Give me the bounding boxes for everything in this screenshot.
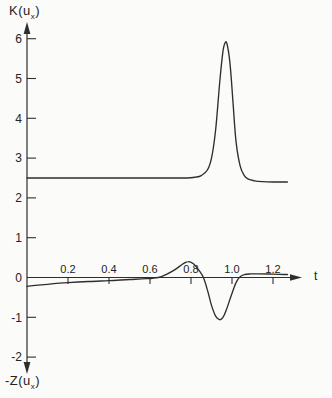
y-tick-label: 4 (15, 112, 22, 126)
y-axis-top-label-text: K(u (9, 3, 31, 18)
y-tick-label: 5 (15, 72, 22, 86)
y-tick-label: -2 (11, 350, 22, 364)
ticks: 6543210-1-20.20.40.60.81.01.2 (11, 32, 280, 364)
x-tick-label: 1.2 (265, 263, 280, 275)
x-tick-label: 0.2 (60, 263, 75, 275)
y-axis-top-label: K(ux) (9, 3, 40, 21)
y-axis-bottom-label: -Z(ux) (5, 373, 40, 391)
x-tick-label: 1.0 (224, 263, 239, 275)
x-axis-label: t (314, 269, 317, 283)
chart-canvas: 6543210-1-20.20.40.60.81.01.2 (0, 0, 332, 398)
y-tick-label: 1 (15, 231, 22, 245)
y-tick-label: 0 (15, 271, 22, 285)
figure: 6543210-1-20.20.40.60.81.01.2 K(ux) -Z(u… (0, 0, 332, 398)
y-axis-up-arrow-icon (24, 22, 31, 34)
x-tick-label: 0.4 (101, 263, 116, 275)
y-axis-top-label-close: ) (35, 3, 40, 18)
x-tick-label: 0.8 (183, 263, 198, 275)
upper-curve-K (27, 42, 287, 182)
y-axis-bottom-label-text: -Z(u (5, 373, 31, 388)
y-tick-label: 2 (15, 191, 22, 205)
y-axis-bottom-label-close: ) (35, 373, 40, 388)
x-tick-label: 0.6 (142, 263, 157, 275)
axes (24, 22, 302, 374)
x-axis-right-arrow-icon (290, 274, 302, 280)
y-tick-label: 3 (15, 151, 22, 165)
y-tick-label: -1 (11, 311, 22, 325)
y-tick-label: 6 (15, 32, 22, 46)
